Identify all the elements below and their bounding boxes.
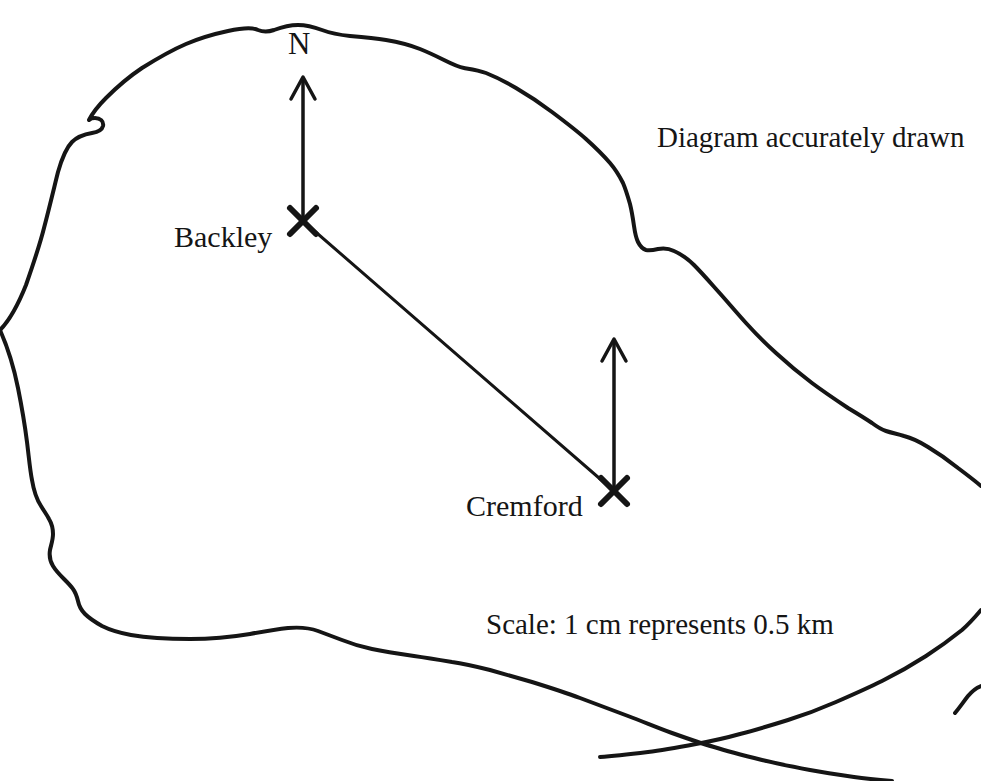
scale-note: Scale: 1 cm represents 0.5 km: [486, 610, 834, 639]
cremford-label: Cremford: [466, 491, 583, 521]
diagram-canvas: N Backley Cremford Scale: 1 cm represent…: [0, 0, 981, 781]
north-arrow-cremford: [602, 339, 626, 491]
coastline-right-lower: [955, 686, 981, 713]
north-label: N: [288, 28, 310, 59]
north-arrow-backley: [291, 77, 315, 221]
backley-cremford-line: [303, 221, 614, 491]
coastline-bottom: [0, 330, 892, 781]
coastline-outline: [0, 25, 981, 486]
backley-label: Backley: [174, 222, 272, 252]
island-map-svg: [0, 0, 981, 781]
accuracy-note: Diagram accurately drawn: [657, 123, 965, 152]
